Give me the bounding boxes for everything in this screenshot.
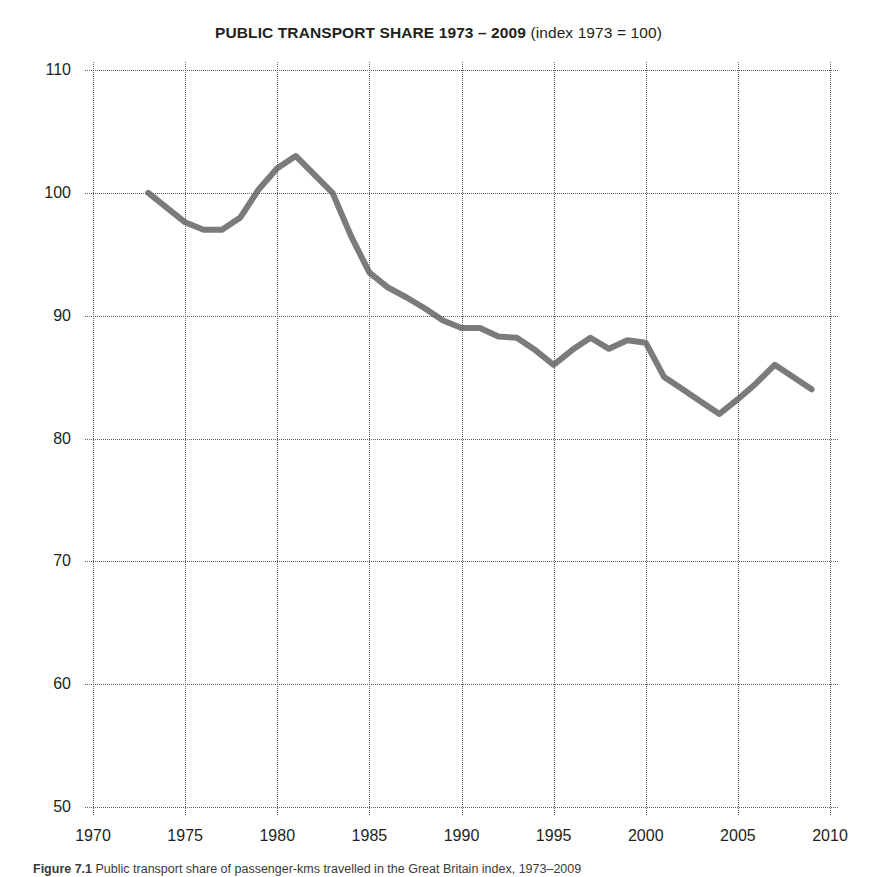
chart-title-main: PUBLIC TRANSPORT SHARE 1973 – 2009 bbox=[215, 24, 526, 41]
figure-caption-text: Public transport share of passenger-kms … bbox=[92, 862, 581, 876]
y-axis-tick-label: 100 bbox=[11, 184, 71, 202]
y-axis-tick-label: 70 bbox=[11, 552, 71, 570]
y-axis-tick-label: 50 bbox=[11, 798, 71, 816]
chart-title: PUBLIC TRANSPORT SHARE 1973 – 2009 (inde… bbox=[0, 24, 877, 42]
x-axis-tick-label: 1995 bbox=[514, 827, 594, 845]
x-axis-tick-label: 1980 bbox=[237, 827, 317, 845]
x-axis-tick-label: 1990 bbox=[422, 827, 502, 845]
y-axis-tick-label: 90 bbox=[11, 307, 71, 325]
x-axis-tick-label: 1970 bbox=[53, 827, 133, 845]
x-axis-tick-label: 1985 bbox=[329, 827, 409, 845]
x-axis-tick-label: 2000 bbox=[606, 827, 686, 845]
y-axis-tick-label: 60 bbox=[11, 675, 71, 693]
series-line-public-transport bbox=[148, 156, 811, 414]
gridline-horizontal bbox=[85, 807, 838, 808]
x-axis-tick-label: 2005 bbox=[698, 827, 778, 845]
gridline-vertical bbox=[830, 62, 831, 815]
plot-area: 5060708090100110197019751980198519901995… bbox=[93, 70, 830, 807]
figure-caption: Figure 7.1 Public transport share of pas… bbox=[33, 862, 853, 876]
series-line-chart bbox=[93, 70, 830, 807]
figure-caption-label: Figure 7.1 bbox=[33, 862, 92, 876]
figure-public-transport-share: PUBLIC TRANSPORT SHARE 1973 – 2009 (inde… bbox=[0, 0, 877, 877]
chart-title-sub: (index 1973 = 100) bbox=[526, 24, 662, 41]
x-axis-tick-label: 2010 bbox=[790, 827, 870, 845]
y-axis-tick-label: 110 bbox=[11, 61, 71, 79]
y-axis-tick-label: 80 bbox=[11, 430, 71, 448]
x-axis-tick-label: 1975 bbox=[145, 827, 225, 845]
